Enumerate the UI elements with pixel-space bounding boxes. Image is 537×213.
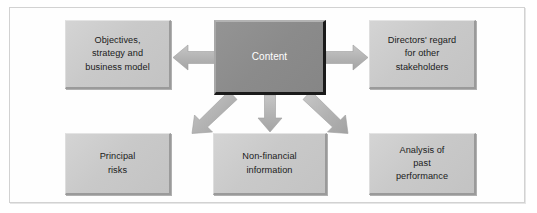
node-content-center[interactable]: Content <box>214 20 326 95</box>
node-directors-regard-other-stakeholders[interactable]: Directors' regard for other stakeholders <box>369 20 476 89</box>
diagram-figure: Objectives, strategy and business model … <box>0 0 537 213</box>
node-objectives-strategy-business-model[interactable]: Objectives, strategy and business model <box>65 20 171 89</box>
node-principal-risks[interactable]: Principal risks <box>65 133 171 195</box>
arrow-to-principal-risks <box>192 91 237 134</box>
node-label: Directors' regard for other stakeholders <box>384 34 460 73</box>
node-non-financial-information[interactable]: Non-financial information <box>213 133 327 195</box>
node-label: Principal risks <box>96 150 140 176</box>
arrow-to-objectives <box>173 45 215 70</box>
arrow-to-directors <box>326 45 368 70</box>
arrow-to-past-performance <box>303 91 348 134</box>
node-label: Objectives, strategy and business model <box>81 34 154 73</box>
node-analysis-of-past-performance[interactable]: Analysis of past performance <box>369 133 476 195</box>
arrow-to-non-financial <box>258 95 282 132</box>
node-label: Non-financial information <box>238 150 300 176</box>
node-label: Analysis of past performance <box>392 144 452 183</box>
node-label: Content <box>248 50 291 64</box>
